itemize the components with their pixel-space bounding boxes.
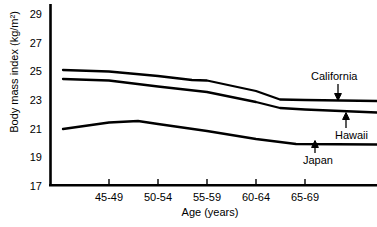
series-line-japan bbox=[63, 121, 377, 145]
series-lines bbox=[63, 70, 377, 145]
chart-plot-area bbox=[0, 0, 377, 227]
series-line-california bbox=[63, 70, 377, 101]
bmi-by-age-line-chart: Body mass index (kg/m²) 29 27 25 23 21 1… bbox=[0, 0, 377, 227]
arrow-head-hawaii bbox=[343, 113, 350, 120]
annotation-arrows bbox=[312, 84, 350, 153]
axis-lines bbox=[49, 4, 377, 186]
